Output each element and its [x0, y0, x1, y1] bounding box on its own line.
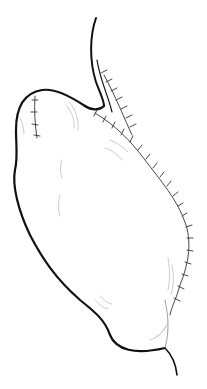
esophagus [85, 18, 112, 112]
fundus-staple-line [31, 96, 40, 138]
stomach-illustration [0, 0, 207, 389]
main-staple-line [94, 70, 193, 315]
illustration-canvas: stomach illustration with surgical stapl… [0, 0, 207, 389]
shading [20, 103, 173, 340]
stomach-body [14, 90, 177, 375]
